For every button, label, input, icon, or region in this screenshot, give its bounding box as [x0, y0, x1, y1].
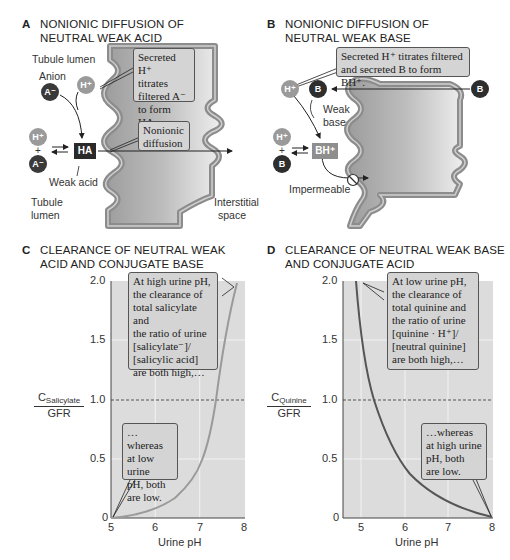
tubule-lumen-label-top: Tubule lumen: [32, 53, 95, 66]
c-ytick-0-5: 0.5: [90, 452, 105, 464]
panel-b-title-line2: NEUTRAL WEAK BASE: [267, 31, 429, 45]
anion-molecule-left: A⁻: [29, 155, 47, 173]
d-ytick-1: 1.0: [322, 393, 337, 405]
panel-b-title-line1: NONIONIC DIFFUSION OF: [285, 18, 429, 30]
c-ylabel: CSalicylate GFR: [34, 391, 84, 419]
tubule-lumen-bottom-2: lumen: [31, 209, 60, 222]
panel-d-title-line2: AND CONJUGATE ACID: [267, 257, 505, 271]
panel-c-title-line1: CLEARANCE OF NEUTRAL WEAK: [40, 244, 225, 256]
weak-base-label-2: base: [323, 116, 346, 129]
panel-c-letter: C: [22, 243, 40, 257]
d-xtick-7: 7: [445, 521, 451, 533]
base-molecule-right: B: [471, 80, 489, 98]
base-molecule-top: B: [309, 80, 327, 98]
base-molecule-left: B: [273, 155, 291, 173]
d-xlabel: Urine pH: [395, 536, 438, 549]
c-xtick-6: 6: [152, 521, 158, 533]
d-xtick-5: 5: [358, 521, 364, 533]
d-xtick-8: 8: [489, 521, 495, 533]
d-ylabel: CQuinine GFR: [267, 391, 311, 419]
weak-acid-label: Weak acid: [49, 176, 98, 189]
tubule-lumen-bottom-1: Tubule: [31, 196, 63, 209]
conjugate-acid-box: BH⁺: [312, 143, 338, 159]
c-ytick-1-5: 1.5: [90, 333, 105, 345]
weak-acid-box: HA: [74, 143, 96, 159]
panel-c-title-line2: ACID AND CONJUGATE BASE: [22, 257, 225, 271]
anion-molecule: A⁻: [41, 83, 59, 101]
panel-b-title: BNONIONIC DIFFUSION OF NEUTRAL WEAK BASE: [267, 17, 429, 45]
d-ytick-0-5: 0.5: [322, 452, 337, 464]
d-ytick-1-5: 1.5: [322, 333, 337, 345]
callout-salicylate-low: …whereas at low urine pH, both are low.: [122, 423, 178, 480]
proton-molecule-top: H⁺: [77, 76, 95, 94]
c-xtick-5: 5: [108, 521, 114, 533]
impermeable-label: Impermeable: [289, 183, 350, 196]
panel-d-title: DCLEARANCE OF NEUTRAL WEAK BASE AND CONJ…: [267, 243, 505, 271]
proton-to-ha-arrow: [76, 92, 78, 110]
panel-c-title: CCLEARANCE OF NEUTRAL WEAK ACID AND CONJ…: [22, 243, 225, 271]
panel-b-epithelial-cell: [347, 79, 465, 226]
anion-label: Anion: [39, 70, 66, 83]
callout-secreted-h-a: Secreted H⁺ titrates filtered A⁻ to form…: [133, 48, 195, 102]
proton-molecule-b-top: H⁺: [281, 80, 299, 98]
d-ytick-2: 2.0: [322, 274, 337, 286]
callout-quinine-high: At low urine pH, the clearance of total …: [387, 272, 479, 370]
callout-nonionic-diffusion: Nonionic diffusion: [138, 121, 190, 151]
c-xlabel: Urine pH: [158, 536, 201, 549]
anion-to-ha-arrow: [60, 95, 82, 138]
callout-quinine-low: …whereas at high urine pH, both are low.: [421, 423, 487, 480]
c-ytick-2: 2.0: [90, 274, 105, 286]
weak-base-label-1: Weak: [323, 103, 350, 116]
c-xtick-7: 7: [197, 521, 203, 533]
callout-salicylate-high: At high urine pH, the clearance of total…: [128, 272, 218, 370]
panel-b-letter: B: [267, 17, 285, 31]
d-xtick-6: 6: [402, 521, 408, 533]
interstitial-label-1: Interstitial: [214, 196, 259, 209]
panel-d-letter: D: [267, 243, 285, 257]
d-ytick-0: 0: [333, 511, 339, 523]
c-ytick-1: 1.0: [90, 393, 105, 405]
c-xtick-8: 8: [241, 521, 247, 533]
proton-to-bh-arrow: [294, 96, 320, 138]
panel-d-title-line1: CLEARANCE OF NEUTRAL WEAK BASE: [285, 244, 505, 256]
interstitial-label-2: space: [218, 209, 246, 222]
callout-secreted-h-b: Secreted H⁺ titrates filtered and secret…: [336, 47, 470, 77]
